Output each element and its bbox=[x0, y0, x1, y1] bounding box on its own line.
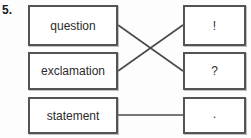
option-label-period: . bbox=[213, 107, 217, 120]
option-box-statement[interactable]: statement bbox=[28, 97, 118, 134]
option-box-question[interactable]: question bbox=[28, 5, 118, 46]
option-box-exclamation[interactable]: exclamation bbox=[28, 52, 118, 90]
connector-question-to-qmark bbox=[118, 25, 183, 71]
option-label-question: question bbox=[50, 20, 95, 32]
option-box-question-mark[interactable]: ? bbox=[183, 52, 246, 90]
connector-exclamation-to-bang bbox=[118, 25, 183, 71]
option-label-statement: statement bbox=[47, 110, 100, 122]
option-label-exclamation-mark: ! bbox=[213, 20, 216, 32]
option-label-question-mark: ? bbox=[211, 65, 218, 77]
option-box-period[interactable]: . bbox=[183, 97, 246, 134]
option-label-exclamation: exclamation bbox=[41, 65, 105, 77]
option-box-exclamation-mark[interactable]: ! bbox=[183, 5, 246, 46]
matching-exercise: 5. question exclamation statement ! ? . bbox=[0, 0, 251, 138]
question-number: 5. bbox=[2, 3, 12, 17]
